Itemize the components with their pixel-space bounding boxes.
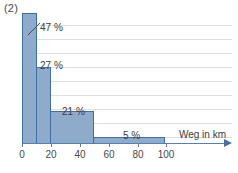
x-tick xyxy=(138,143,139,147)
value-label-bar-50-100: 5 % xyxy=(123,130,140,141)
leader-line-icon xyxy=(27,22,41,36)
x-tick xyxy=(166,143,167,147)
value-label-bar-0-10: 47 % xyxy=(40,22,63,33)
x-tick xyxy=(22,143,23,147)
x-axis-arrow-icon xyxy=(224,139,232,147)
x-tick-label-40: 40 xyxy=(74,149,85,160)
figure-number-label: (2) xyxy=(4,2,18,14)
x-tick xyxy=(51,143,52,147)
x-tick-label-60: 60 xyxy=(103,149,114,160)
bar-10-20 xyxy=(36,67,51,144)
x-tick-label-100: 100 xyxy=(158,149,175,160)
x-axis-line xyxy=(22,143,226,144)
x-tick-label-0: 0 xyxy=(19,149,25,160)
figure-container: (2) 47 % 27 % 21 % 5 % 0 20 xyxy=(0,0,238,173)
x-tick xyxy=(80,143,81,147)
value-label-bar-20-50: 21 % xyxy=(62,106,85,117)
x-axis-title: Weg in km xyxy=(179,129,226,140)
value-label-bar-10-20: 27 % xyxy=(40,60,63,71)
x-tick-label-20: 20 xyxy=(45,149,56,160)
x-tick xyxy=(109,143,110,147)
x-tick-label-80: 80 xyxy=(132,149,143,160)
